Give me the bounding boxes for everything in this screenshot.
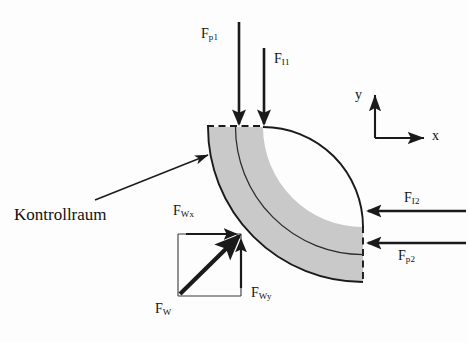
force-arrow-FW-resultant [180,236,239,294]
force-label-FWx: FWx [173,204,194,219]
axis-label-y: y [355,88,362,102]
force-label-FI1: FI1 [274,52,290,67]
control-volume-diagram [0,0,468,343]
force-label-FWy-subscript: Wy [259,291,272,301]
control-volume-fill [208,127,363,282]
axis-label-x: x [432,129,439,143]
caption-leader-line [95,155,208,200]
force-label-FW-subscript: W [163,307,172,317]
force-label-FWy: FWy [251,286,272,301]
force-label-Fp2: Fp2 [398,249,415,264]
coordinate-axes [375,95,424,138]
force-label-FI2-subscript: I2 [412,196,420,206]
control-volume-body [207,126,363,283]
force-label-Fp2-subscript: p2 [406,254,416,264]
force-label-Fp1: Fp1 [201,27,218,42]
force-label-Fp1-subscript: p1 [209,32,219,42]
force-label-FI1-subscript: I1 [282,57,290,67]
force-label-FI2: FI2 [404,191,420,206]
force-label-FWx-subscript: Wx [181,209,195,219]
caption-kontrollraum: Kontrollraum [14,206,107,223]
force-label-FW: FW [155,302,172,317]
figure-root: Fp1 FI1 FI2 Fp2 FWx FWy FW y x Kontrollr… [0,0,468,343]
